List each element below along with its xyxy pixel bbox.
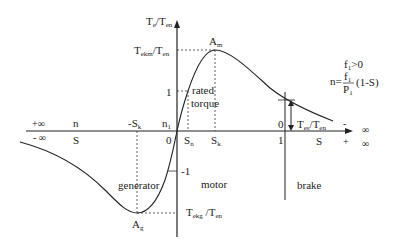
- torque-slip-diagram: Te/Ten Tekm/Ten Am 1 rated torque +∞ - ∞…: [0, 0, 403, 251]
- left-plus-inf: +∞: [32, 118, 45, 129]
- start-torque-arrow: [288, 100, 294, 131]
- right-inf-bottom: ∞: [362, 138, 369, 149]
- right-inf-top: ∞: [362, 124, 369, 135]
- right-minus-sign: -: [343, 118, 346, 129]
- x-label-s-left: S: [73, 134, 79, 146]
- svg-text:f1: f1: [344, 70, 352, 84]
- tick-tekm: Tekm/Ten: [134, 44, 170, 58]
- svg-text:n=: n=: [330, 75, 342, 87]
- tick-one: 1: [166, 86, 172, 98]
- point-ag-label: Ag: [132, 218, 144, 232]
- tick-brake-zero: 0: [278, 118, 284, 130]
- y-axis-label: Te/Ten: [146, 15, 173, 29]
- x-label-s-right: S: [316, 135, 322, 147]
- svg-text:P1: P1: [343, 83, 353, 97]
- svg-text:(1-S): (1-S): [356, 76, 379, 89]
- tick-brake-one: 1: [278, 134, 284, 146]
- x-label-n: n: [73, 117, 79, 129]
- tick-minus-one: -1: [181, 165, 190, 177]
- left-minus-inf: - ∞: [33, 132, 46, 143]
- region-generator: generator: [118, 179, 160, 191]
- rated-label-1: rated: [192, 84, 214, 96]
- tick-minus-sk: -Sk: [128, 117, 142, 131]
- tick-n1: n1: [162, 117, 172, 131]
- tick-tekg: Tekg /Ten: [186, 206, 222, 220]
- rated-label-2: torque: [191, 97, 219, 109]
- point-am-label: Am: [209, 35, 223, 49]
- region-brake: brake: [297, 179, 322, 191]
- tick-tes: Tes/Ten: [297, 118, 326, 132]
- region-motor: motor: [201, 178, 228, 190]
- tick-sn: Sn: [184, 134, 194, 148]
- tick-sk: Sk: [211, 134, 221, 148]
- tick-zero: 0: [166, 134, 172, 146]
- right-plus-sign: +: [343, 136, 349, 147]
- formula: f1>0 n= f1 P1 (1-S): [330, 58, 379, 97]
